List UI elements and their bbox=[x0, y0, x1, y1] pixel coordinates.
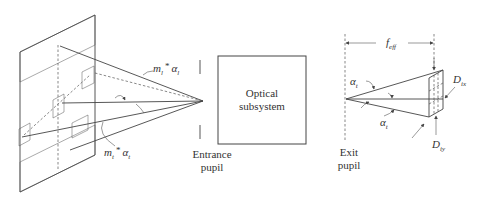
plane-diagonal-axis bbox=[24, 75, 90, 135]
optical-diagram: ml*αl mt*αt Entrance pupil Optical subsy… bbox=[0, 0, 481, 197]
patch-center bbox=[53, 94, 64, 118]
alpha-upper-arc bbox=[366, 81, 374, 89]
object-plane bbox=[19, 15, 95, 192]
exit-pupil-label-2: pupil bbox=[338, 159, 361, 171]
exit-ray-top bbox=[346, 70, 443, 99]
angle-label-longitudinal: ml*αl bbox=[153, 61, 179, 77]
patch-upper bbox=[82, 66, 94, 89]
optical-subsystem-label-1: Optical bbox=[246, 87, 278, 99]
angle-arc-center bbox=[115, 95, 125, 100]
dix-arrow bbox=[445, 87, 455, 98]
ray-top bbox=[60, 46, 203, 101]
entrance-pupil-label-2: pupil bbox=[201, 161, 224, 173]
detector-element-grid bbox=[429, 73, 443, 114]
top-detector-band bbox=[20, 15, 95, 82]
angle-arc-lower bbox=[136, 104, 144, 113]
detector-depth-arrow bbox=[412, 124, 424, 138]
object-plane-outline bbox=[20, 15, 95, 192]
exit-pupil-label-1: Exit bbox=[340, 146, 358, 158]
angle-label-transverse: mt*αt bbox=[104, 145, 131, 161]
optical-subsystem-label-2: subsystem bbox=[239, 100, 285, 112]
entrance-pupil-label-1: Entrance bbox=[192, 148, 231, 160]
leader-m-l bbox=[143, 71, 153, 75]
focal-length-label: feff bbox=[386, 36, 397, 51]
ray-upper-dashed bbox=[95, 73, 203, 101]
alpha-center-arc bbox=[388, 93, 392, 98]
detector-y-label: Diy bbox=[431, 138, 446, 153]
ray-lower bbox=[22, 101, 203, 137]
image-side: feff αt αt Dix Diy Exit pupil bbox=[338, 34, 467, 171]
alpha-lower-label: αt bbox=[380, 116, 389, 131]
ray-center bbox=[62, 101, 203, 103]
alpha-upper-label: αt bbox=[350, 75, 359, 90]
optical-subsystem: Optical subsystem bbox=[218, 56, 306, 144]
ray-bottom bbox=[70, 101, 203, 150]
detector-element bbox=[429, 70, 443, 117]
detector-x-label: Dix bbox=[452, 73, 467, 88]
